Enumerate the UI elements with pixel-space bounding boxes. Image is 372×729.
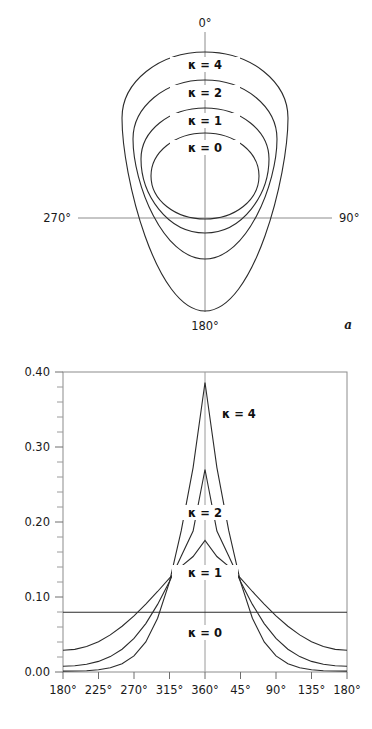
panel-letter-a: a bbox=[344, 318, 352, 332]
cartesian-curve-label-kappa-2: κ = 2 bbox=[188, 506, 222, 520]
x-tick-label-3: 315° bbox=[156, 683, 184, 697]
cartesian-curve-label-kappa-1: κ = 1 bbox=[188, 566, 222, 580]
polar-curve-label-kappa-2: κ = 2 bbox=[188, 86, 222, 100]
x-tick-label-4: 360° bbox=[191, 683, 219, 697]
y-tick-label-1: 0.30 bbox=[24, 440, 50, 454]
x-tick-label-7: 135° bbox=[298, 683, 326, 697]
polar-angle-label-bottom: 180° bbox=[191, 319, 219, 333]
x-tick-label-8: 180° bbox=[333, 683, 361, 697]
y-tick-label-2: 0.20 bbox=[24, 515, 50, 529]
y-tick-label-4: 0.00 bbox=[24, 665, 50, 679]
polar-plot-svg: 0° 90° 180° 270° κ = 4 κ = 2 κ = 1 κ = 0 bbox=[0, 0, 372, 340]
x-tick-label-1: 225° bbox=[85, 683, 113, 697]
polar-angle-label-left: 270° bbox=[43, 211, 71, 225]
polar-angle-label-right: 90° bbox=[339, 211, 359, 225]
polar-curve-label-kappa-0: κ = 0 bbox=[188, 141, 222, 155]
cartesian-curve-label-kappa-4: κ = 4 bbox=[222, 407, 256, 421]
polar-curve-label-kappa-1: κ = 1 bbox=[188, 114, 222, 128]
polar-angle-label-top: 0° bbox=[198, 16, 211, 30]
polar-curve-label-kappa-4: κ = 4 bbox=[188, 58, 222, 72]
x-tick-label-5: 45° bbox=[230, 683, 250, 697]
y-tick-label-3: 0.10 bbox=[24, 590, 50, 604]
x-axis-ticks bbox=[63, 672, 347, 679]
figure-container: 0° 90° 180° 270° κ = 4 κ = 2 κ = 1 κ = 0… bbox=[0, 0, 372, 729]
cartesian-plot-svg: 0.40 0.30 0.20 0.10 0.00 180° 225° 270° … bbox=[0, 340, 372, 729]
y-tick-label-0: 0.40 bbox=[24, 365, 50, 379]
polar-plot-panel: 0° 90° 180° 270° κ = 4 κ = 2 κ = 1 κ = 0… bbox=[0, 0, 372, 340]
x-tick-label-6: 90° bbox=[266, 683, 286, 697]
x-tick-label-2: 270° bbox=[120, 683, 148, 697]
cartesian-curve-label-kappa-0: κ = 0 bbox=[188, 626, 222, 640]
x-tick-label-0: 180° bbox=[49, 683, 77, 697]
cartesian-plot-panel: 0.40 0.30 0.20 0.10 0.00 180° 225° 270° … bbox=[0, 340, 372, 729]
